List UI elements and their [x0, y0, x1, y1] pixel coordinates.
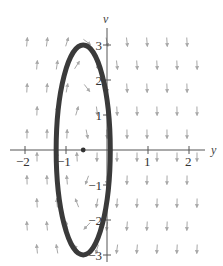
direction-arrow [75, 199, 78, 207]
y-tick-label: 3 [96, 38, 103, 53]
direction-arrow [116, 245, 117, 254]
direction-arrow [46, 38, 47, 47]
x-tick-label: 2 [185, 154, 192, 169]
direction-arrow [157, 245, 158, 254]
direction-arrow [116, 61, 117, 70]
direction-arrow [127, 84, 128, 93]
direction-arrow [127, 222, 128, 231]
phase-plane-plot: −2−112 −3−2−1123 y v [0, 0, 223, 266]
direction-arrow [66, 84, 68, 93]
direction-arrow [86, 130, 88, 139]
direction-arrow [56, 245, 58, 254]
direction-arrow [96, 199, 98, 208]
direction-arrow [47, 84, 48, 93]
direction-arrow [147, 38, 148, 47]
direction-arrow [37, 245, 38, 254]
equilibrium-point [81, 148, 86, 153]
direction-arrow [56, 61, 57, 70]
direction-arrow [75, 61, 80, 69]
x-axis-ticks: −2−112 [16, 146, 192, 169]
x-axis-label: y [210, 143, 217, 157]
direction-arrow [137, 245, 138, 254]
x-tick-label: −1 [57, 154, 71, 169]
direction-arrow [27, 38, 28, 47]
y-tick-label: −1 [88, 178, 102, 193]
direction-arrow [47, 222, 48, 231]
direction-arrow [117, 199, 118, 208]
x-tick-label: −2 [16, 154, 30, 169]
direction-arrow [76, 107, 79, 116]
direction-arrow [67, 176, 68, 185]
x-tick-label: 1 [144, 154, 151, 169]
direction-arrow [84, 84, 89, 91]
direction-arrow [126, 38, 127, 47]
y-axis-label: v [103, 12, 109, 26]
direction-arrow [147, 222, 148, 231]
direction-arrow [167, 38, 168, 47]
direction-arrow [137, 61, 138, 70]
direction-arrow [37, 61, 38, 70]
direction-arrow [66, 38, 69, 47]
direction-arrow [27, 222, 28, 231]
y-tick-label: 1 [96, 108, 103, 123]
